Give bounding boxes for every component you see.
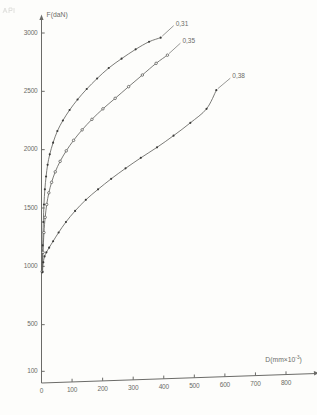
x-tick-label-400: 400 <box>152 384 176 391</box>
data-markers-group <box>41 37 218 274</box>
x-tick-label-600: 600 <box>213 382 237 389</box>
y-tick-label-100: 100 <box>4 368 38 375</box>
x-axis-title: D(mm×10-3) <box>265 356 301 364</box>
x-tick-label-500: 500 <box>182 383 206 390</box>
x-axis-title-suffix: ) <box>299 356 301 363</box>
x-tick-label-200: 200 <box>91 386 115 393</box>
chart-container: F(daN) D(mm×10-3) 1005001000150020002500… <box>0 0 317 415</box>
series-label-2: 0,35 <box>182 38 195 45</box>
scan-corner-artifact <box>2 1 18 10</box>
y-tick-label-1000: 1000 <box>4 263 38 270</box>
x-tick-label-300: 300 <box>121 385 145 392</box>
series-label-3: 0,38 <box>232 73 245 80</box>
series-label-1: 0,31 <box>176 21 189 28</box>
x-axis-title-base: D(mm×10 <box>265 356 295 363</box>
x-tick-label-100: 100 <box>60 387 84 394</box>
y-tick-label-2000: 2000 <box>4 146 38 153</box>
chart-plot-area <box>0 0 317 415</box>
y-tick-label-3000: 3000 <box>4 30 38 37</box>
y-tick-label-1500: 1500 <box>4 205 38 212</box>
x-tick-label-800: 800 <box>274 380 298 387</box>
x-tick-label-700: 700 <box>243 381 267 388</box>
data-curves-group <box>42 38 216 273</box>
y-axis-title: F(daN) <box>47 12 68 19</box>
y-tick-label-2500: 2500 <box>4 88 38 95</box>
x-tick-label-0: 0 <box>30 388 54 395</box>
y-tick-label-500: 500 <box>4 321 38 328</box>
axes-group <box>39 15 317 384</box>
series-leader-lines-group <box>162 26 230 89</box>
